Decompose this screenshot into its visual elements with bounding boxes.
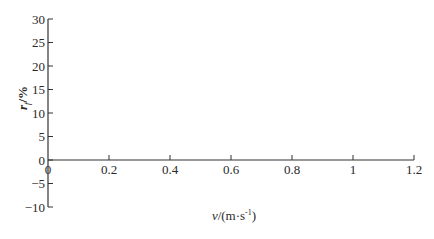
x-tick-label: 1.2 [406, 162, 422, 177]
y-tick-label: 25 [32, 35, 45, 50]
y-ticks: 302520151050−5−10 [25, 12, 53, 215]
chart: 302520151050−5−10 00.20.40.60.811.2 rf/%… [0, 0, 434, 239]
y-tick-label: 30 [32, 12, 45, 27]
x-tick-label: 0.8 [284, 162, 300, 177]
x-tick-label: 0.6 [223, 162, 240, 177]
y-tick-label: 15 [32, 82, 45, 97]
x-tick-label: 0 [45, 162, 52, 177]
y-tick-label: 10 [32, 106, 45, 121]
y-tick-label: 5 [39, 129, 46, 144]
x-tick-label: 0.4 [162, 162, 179, 177]
x-axis-label: v/(m·s-1) [212, 208, 256, 223]
y-axis-label: rf/% [15, 86, 32, 110]
y-tick-label: −10 [25, 200, 45, 215]
y-tick-label: 20 [32, 59, 45, 74]
x-ticks: 00.20.40.60.811.2 [45, 155, 422, 177]
y-tick-label: −5 [31, 176, 45, 191]
x-tick-label: 0.2 [101, 162, 117, 177]
x-tick-label: 1 [350, 162, 357, 177]
